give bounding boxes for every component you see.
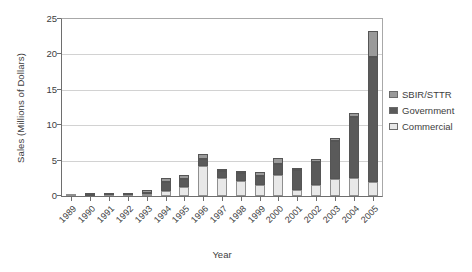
legend-label: Commercial xyxy=(402,122,453,132)
legend-swatch-icon xyxy=(389,91,398,98)
legend-swatch-icon xyxy=(389,107,398,114)
legend-label: SBIR/STTR xyxy=(402,90,452,100)
y-tick-mark xyxy=(57,89,61,90)
y-tick-mark xyxy=(57,18,61,19)
chart-legend: SBIR/STTRGovernmentCommercial xyxy=(389,88,469,136)
y-tick-mark xyxy=(57,160,61,161)
y-tick-mark xyxy=(57,195,61,196)
legend-item[interactable]: Government xyxy=(389,104,469,117)
legend-item[interactable]: Commercial xyxy=(389,120,469,133)
y-tick-mark xyxy=(57,53,61,54)
legend-swatch-icon xyxy=(389,123,398,130)
legend-label: Government xyxy=(402,106,454,116)
x-axis-title: Year xyxy=(61,249,383,260)
legend-item[interactable]: SBIR/STTR xyxy=(389,88,469,101)
stacked-bar-chart: Sales (Millions of Dollars) 0510152025 1… xyxy=(0,0,472,272)
y-tick-mark xyxy=(57,124,61,125)
x-axis-tick-labels: 1989199019911992199319941995199619971998… xyxy=(0,0,472,272)
